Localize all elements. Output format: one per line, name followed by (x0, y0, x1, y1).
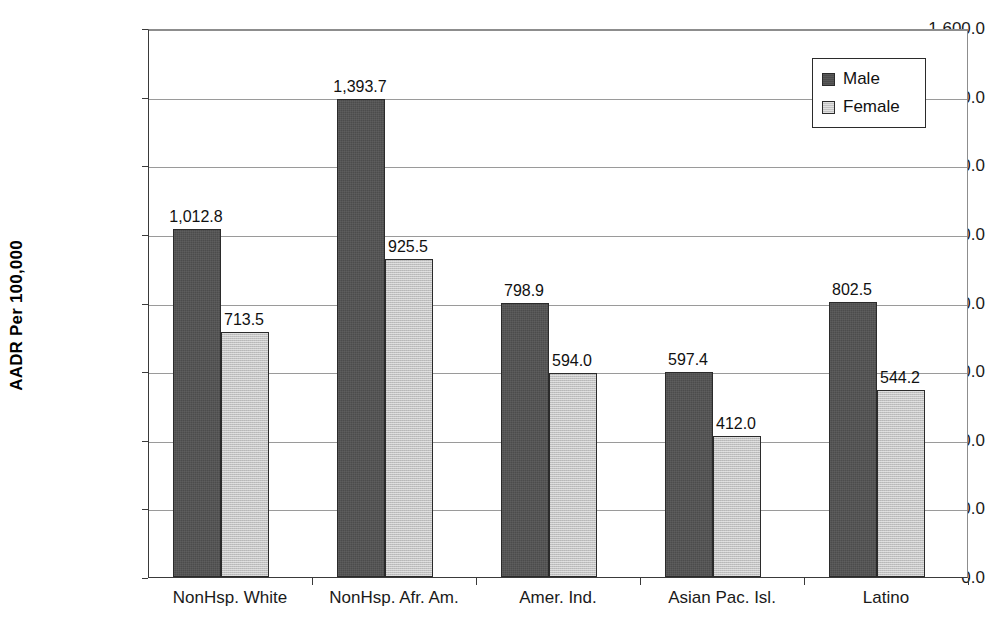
x-axis-category-label: Latino (863, 588, 909, 608)
x-axis-category-label: Asian Pac. Isl. (668, 588, 776, 608)
y-axis-title: AADR Per 100,000 (0, 0, 34, 631)
x-axis-tick-mark (476, 578, 477, 585)
x-axis-tick-mark (968, 578, 969, 585)
legend: Male Female (812, 58, 926, 128)
legend-label-male: Male (843, 69, 880, 89)
data-label: 925.5 (388, 238, 428, 256)
x-axis-category-label: Amer. Ind. (519, 588, 596, 608)
data-label: 597.4 (668, 351, 708, 369)
bar-female (385, 259, 433, 577)
bar-female (713, 436, 761, 577)
y-axis-tick-mark (142, 578, 148, 579)
data-label: 1,393.7 (333, 78, 386, 96)
x-axis-tick-mark (640, 578, 641, 585)
bar-male (501, 303, 549, 577)
data-label: 802.5 (832, 281, 872, 299)
bar-chart: AADR Per 100,000 0.0200.0400.0600.0800.0… (0, 0, 985, 631)
bar-female (221, 332, 269, 577)
data-label: 1,012.8 (169, 208, 222, 226)
legend-label-female: Female (843, 97, 900, 117)
x-axis-category-label: NonHsp. White (173, 588, 287, 608)
data-label: 713.5 (224, 311, 264, 329)
bar-male (829, 302, 877, 577)
bar-female (877, 390, 925, 577)
x-axis-tick-mark (804, 578, 805, 585)
data-label: 412.0 (716, 415, 756, 433)
legend-item-female: Female (822, 93, 925, 121)
bar-male (665, 372, 713, 577)
bar-male (173, 229, 221, 577)
x-axis-tick-mark (312, 578, 313, 585)
data-label: 544.2 (880, 369, 920, 387)
legend-item-male: Male (822, 65, 925, 93)
bar-male (337, 99, 385, 577)
data-label: 594.0 (552, 352, 592, 370)
bar-female (549, 373, 597, 577)
data-label: 798.9 (504, 282, 544, 300)
x-axis-category-label: NonHsp. Afr. Am. (329, 588, 458, 608)
legend-swatch-female-icon (822, 101, 835, 114)
legend-swatch-male-icon (822, 73, 835, 86)
